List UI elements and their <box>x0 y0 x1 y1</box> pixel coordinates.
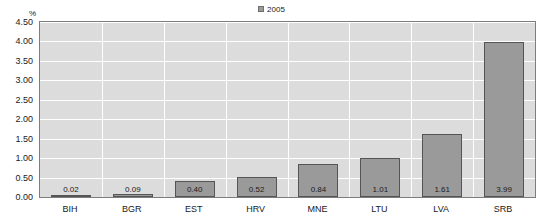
bar-group: 0.40 <box>164 22 226 197</box>
legend-swatch-icon <box>258 6 264 12</box>
y-axis-tick-label: 0.50 <box>15 173 33 183</box>
bar-group: 1.01 <box>349 22 411 197</box>
legend-item-2005: 2005 <box>258 5 285 14</box>
y-axis-tick-label: 2.00 <box>15 114 33 124</box>
x-axis-tick-label: SRB <box>472 204 534 215</box>
bar-group: 0.52 <box>226 22 288 197</box>
bar[interactable] <box>51 195 91 197</box>
y-axis-tick-label: 4.00 <box>15 36 33 46</box>
bar-value-label: 1.01 <box>373 185 389 194</box>
y-axis-tick-label: 2.50 <box>15 95 33 105</box>
y-axis-tick-label: 3.50 <box>15 56 33 66</box>
x-axis-tick-label: LTU <box>348 204 410 215</box>
bar-chart: 2005 % 0.000.501.001.502.002.503.003.504… <box>0 0 543 224</box>
bar-group: 3.99 <box>473 22 535 197</box>
x-axis-tick-label: MNE <box>287 204 349 215</box>
bars-layer: 0.020.090.400.520.841.011.613.99 <box>40 22 535 197</box>
bar[interactable] <box>113 194 153 198</box>
bar-group: 0.02 <box>40 22 102 197</box>
bar-group: 1.61 <box>411 22 473 197</box>
bar-value-label: 0.09 <box>125 185 141 194</box>
y-axis-tick-label: 3.00 <box>15 75 33 85</box>
bar-value-label: 0.40 <box>187 185 203 194</box>
bar[interactable] <box>484 42 524 197</box>
bar-group: 0.09 <box>102 22 164 197</box>
x-axis-tick-label: EST <box>163 204 225 215</box>
bar-value-label: 1.61 <box>434 185 450 194</box>
x-axis-tick-label: LVA <box>410 204 472 215</box>
bar-group: 0.84 <box>288 22 350 197</box>
y-axis-tick-label: 1.00 <box>15 153 33 163</box>
y-axis-tick-label: 4.50 <box>15 17 33 27</box>
chart-legend: 2005 <box>0 3 543 15</box>
y-axis-tick-label: 1.50 <box>15 134 33 144</box>
x-axis-tick-label: BIH <box>39 204 101 215</box>
x-axis-tick-label: BGR <box>101 204 163 215</box>
x-axis: BIHBGRESTHRVMNELTULVASRB <box>39 200 536 220</box>
legend-item-label: 2005 <box>267 5 285 14</box>
y-axis-tick-label: 0.00 <box>15 192 33 202</box>
plot-area: 0.020.090.400.520.841.011.613.99 <box>39 21 536 198</box>
y-axis: 0.000.501.001.502.002.503.003.504.004.50 <box>0 21 36 198</box>
bar-value-label: 0.84 <box>311 185 327 194</box>
bar-value-label: 0.52 <box>249 185 265 194</box>
x-axis-tick-label: HRV <box>225 204 287 215</box>
bar-value-label: 3.99 <box>496 185 512 194</box>
bar-value-label: 0.02 <box>63 185 79 194</box>
